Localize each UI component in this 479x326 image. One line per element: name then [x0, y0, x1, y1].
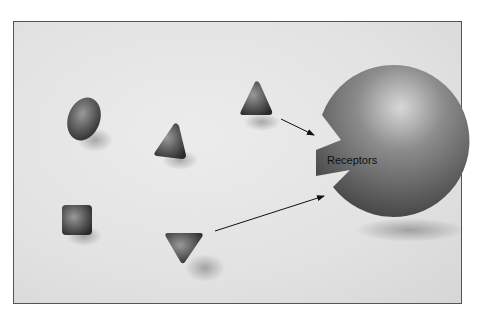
arrow-top-to-receptor [281, 119, 314, 135]
triangle-top-shadow [244, 113, 280, 131]
square-molecule [62, 205, 92, 235]
diagram-canvas [0, 0, 479, 326]
triangle-molecule-top [240, 81, 272, 115]
receptor-shadow [355, 218, 465, 242]
receptors-label: Receptors [327, 154, 377, 166]
inverted-triangle-shadow [185, 254, 225, 282]
arrow-bottom-to-receptor [215, 196, 324, 231]
triangle-molecule-left [154, 123, 186, 159]
receptor-sphere [316, 65, 469, 217]
